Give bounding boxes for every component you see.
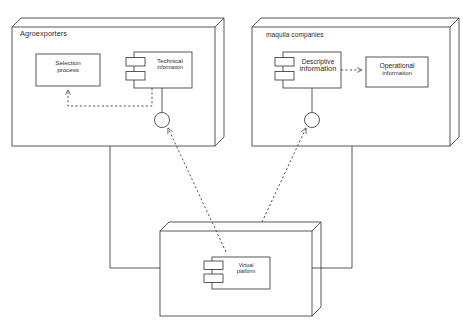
dependency-platform-to-maquila-interface: [262, 128, 306, 222]
component-technical-information-shape: [126, 52, 192, 88]
dependency-technical-to-selection: [68, 88, 152, 106]
interface-maquila-provided: [305, 88, 320, 128]
association-maquila-to-platform: [312, 146, 352, 268]
component-descriptive-information-shape: [275, 52, 341, 88]
component-virtual-platform-shape: [204, 257, 270, 289]
diagram-graphics: [0, 0, 463, 323]
association-agroexporters-to-platform: [110, 146, 160, 268]
interface-agroexporters-provided: [155, 88, 170, 128]
dependency-platform-to-agroexporters-interface: [168, 128, 226, 252]
node-virtual-platform-shape: [160, 222, 321, 316]
diagram-canvas: Agroexporters maquila companies Selectio…: [0, 0, 463, 323]
component-operational-information-shape: [366, 57, 428, 87]
component-selection-process-shape: [36, 54, 100, 86]
